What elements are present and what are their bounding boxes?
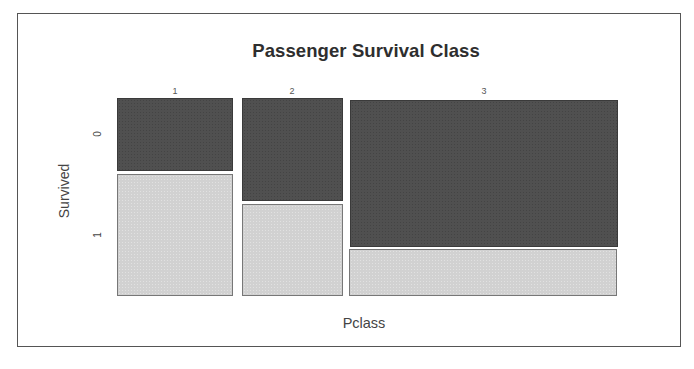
survived-label-1: 1: [92, 232, 103, 238]
chart-title: Passenger Survival Class: [0, 40, 694, 62]
pclass-label-1: 1: [172, 86, 177, 96]
pclass-label-3: 3: [481, 86, 486, 96]
tile-pclass2-survived0: [242, 98, 343, 201]
pclass-label-2: 2: [289, 86, 294, 96]
tile-pclass3-survived0: [350, 100, 618, 247]
y-axis-title: Survived: [56, 164, 72, 218]
x-axis-title: Pclass: [343, 315, 386, 331]
survived-label-0: 0: [92, 131, 103, 137]
tile-pclass1-survived1: [117, 174, 233, 296]
tile-pclass1-survived0: [117, 98, 233, 171]
tile-pclass3-survived1: [349, 249, 617, 296]
tile-pclass2-survived1: [242, 204, 343, 296]
